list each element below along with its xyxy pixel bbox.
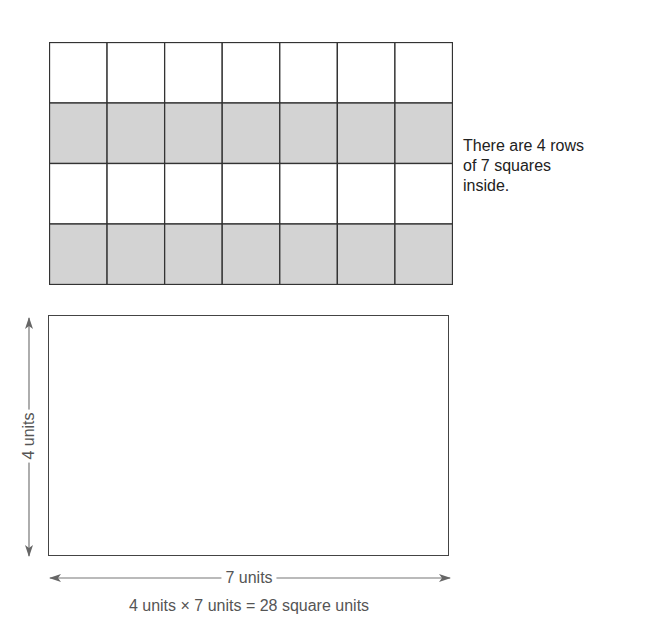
dimension-arrows (0, 0, 646, 623)
width-label: 7 units (221, 569, 276, 587)
height-label: 4 units (20, 409, 38, 462)
area-equation: 4 units × 7 units = 28 square units (129, 597, 369, 615)
